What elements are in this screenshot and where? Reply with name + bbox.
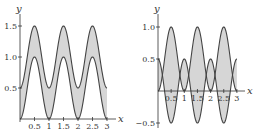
right-x-axis-label: x <box>247 85 253 96</box>
x-tick-label: 2 <box>75 122 80 131</box>
left-y-axis-label: y <box>15 3 22 14</box>
figure: 0.511.522.53 0.51.01.5 x y 0.511.522.53 … <box>0 0 255 136</box>
y-tick-label: 1.0 <box>142 23 155 32</box>
x-tick-label: 0.5 <box>28 122 41 131</box>
y-tick-label: 1.0 <box>4 53 17 62</box>
x-tick-label: 2.5 <box>217 94 230 103</box>
left-shaded-region <box>20 26 107 119</box>
left-plot: 0.511.522.53 0.51.01.5 x y <box>4 3 124 131</box>
left-lower-curve <box>20 57 107 119</box>
y-tick-label: 1.5 <box>4 22 17 31</box>
left-y-ticks: 0.51.01.5 <box>4 22 22 93</box>
right-shaded-region <box>158 27 237 123</box>
y-tick-label: 0.5 <box>4 84 17 93</box>
x-tick-label: 1 <box>182 94 187 103</box>
left-x-axis-label: x <box>118 113 124 124</box>
x-tick-label: 1.5 <box>191 94 204 103</box>
x-tick-label: 1.5 <box>57 122 70 131</box>
x-tick-label: 3 <box>234 94 239 103</box>
right-y-ticks: −0.50.51.0 <box>136 23 160 128</box>
x-tick-label: 2.5 <box>86 122 99 131</box>
right-plot: 0.511.522.53 −0.50.51.0 x y <box>136 3 253 128</box>
x-tick-label: 3 <box>104 122 109 131</box>
x-tick-label: 1 <box>46 122 51 131</box>
y-tick-label: 0.5 <box>142 55 155 64</box>
right-y-axis-label: y <box>153 3 160 14</box>
y-tick-label: −0.5 <box>136 119 155 128</box>
x-tick-label: 0.5 <box>165 94 178 103</box>
x-tick-label: 2 <box>208 94 213 103</box>
